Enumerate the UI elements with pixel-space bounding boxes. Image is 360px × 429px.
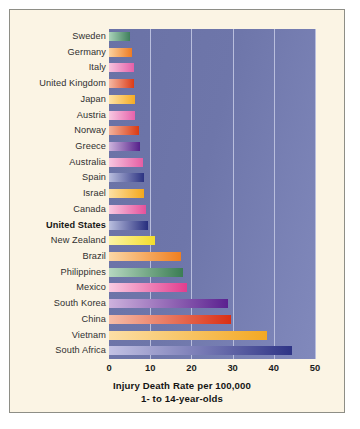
bar-south-africa[interactable] (109, 346, 292, 355)
category-label-new-zealand: New Zealand (12, 233, 106, 249)
chart-figure: SwedenGermanyItalyUnited KingdomJapanAus… (9, 9, 345, 413)
category-label-sweden: Sweden (12, 29, 106, 45)
bar-row (109, 186, 315, 202)
bar-germany[interactable] (109, 48, 132, 57)
bar-vietnam[interactable] (109, 331, 267, 340)
bar-chart: SwedenGermanyItalyUnited KingdomJapanAus… (10, 10, 344, 412)
category-label-spain: Spain (12, 170, 106, 186)
category-label-china: China (12, 312, 106, 328)
axis-title: Injury Death Rate per 100,000 1- to 14-y… (30, 380, 334, 405)
bar-israel[interactable] (109, 189, 144, 198)
bar-china[interactable] (109, 315, 231, 324)
category-label-brazil: Brazil (12, 249, 106, 265)
category-label-australia: Australia (12, 155, 106, 171)
bar-row (109, 343, 315, 359)
plot-area (109, 29, 315, 359)
bar-new-zealand[interactable] (109, 236, 155, 245)
category-label-japan: Japan (12, 92, 106, 108)
bar-row (109, 139, 315, 155)
bar-south-korea[interactable] (109, 299, 228, 308)
bar-sweden[interactable] (109, 32, 130, 41)
bar-row (109, 92, 315, 108)
category-label-united-kingdom: United Kingdom (12, 76, 106, 92)
bar-row (109, 45, 315, 61)
bar-row (109, 29, 315, 45)
value-axis: 01020304050 (109, 362, 315, 376)
bar-row (109, 296, 315, 312)
category-label-norway: Norway (12, 123, 106, 139)
bar-row (109, 249, 315, 265)
category-label-germany: Germany (12, 45, 106, 61)
bar-brazil[interactable] (109, 252, 181, 261)
category-label-south-korea: South Korea (12, 296, 106, 312)
bar-japan[interactable] (109, 95, 135, 104)
xtick-label-0: 0 (106, 362, 111, 373)
bar-row (109, 312, 315, 328)
bar-norway[interactable] (109, 126, 139, 135)
xtick-label-20: 20 (186, 362, 196, 373)
gridline-50 (315, 29, 316, 359)
bar-greece[interactable] (109, 142, 140, 151)
category-label-mexico: Mexico (12, 280, 106, 296)
bar-row (109, 202, 315, 218)
bar-australia[interactable] (109, 158, 143, 167)
bar-austria[interactable] (109, 111, 135, 120)
bar-mexico[interactable] (109, 283, 187, 292)
category-label-vietnam: Vietnam (12, 328, 106, 344)
xtick-label-10: 10 (145, 362, 155, 373)
bar-united-states[interactable] (109, 221, 148, 230)
bar-row (109, 328, 315, 344)
category-label-united-states: United States (12, 218, 106, 234)
bar-canada[interactable] (109, 205, 146, 214)
xtick-label-40: 40 (269, 362, 279, 373)
bar-row (109, 280, 315, 296)
category-label-philippines: Philippines (12, 265, 106, 281)
bar-italy[interactable] (109, 63, 134, 72)
category-label-greece: Greece (12, 139, 106, 155)
category-axis: SwedenGermanyItalyUnited KingdomJapanAus… (10, 29, 106, 359)
category-label-canada: Canada (12, 202, 106, 218)
bar-philippines[interactable] (109, 268, 183, 277)
category-label-italy: Italy (12, 60, 106, 76)
bar-row (109, 123, 315, 139)
category-label-austria: Austria (12, 108, 106, 124)
bar-row (109, 170, 315, 186)
xtick-label-30: 30 (227, 362, 237, 373)
bar-spain[interactable] (109, 173, 144, 182)
xtick-label-50: 50 (310, 362, 320, 373)
category-label-south-africa: South Africa (12, 343, 106, 359)
axis-title-line1: Injury Death Rate per 100,000 (30, 380, 334, 393)
bar-row (109, 265, 315, 281)
category-label-israel: Israel (12, 186, 106, 202)
bar-row (109, 233, 315, 249)
bar-row (109, 218, 315, 234)
bar-row (109, 76, 315, 92)
bar-row (109, 108, 315, 124)
axis-title-line2: 1- to 14-year-olds (30, 393, 334, 406)
bar-row (109, 155, 315, 171)
bar-row (109, 60, 315, 76)
bar-united-kingdom[interactable] (109, 79, 134, 88)
